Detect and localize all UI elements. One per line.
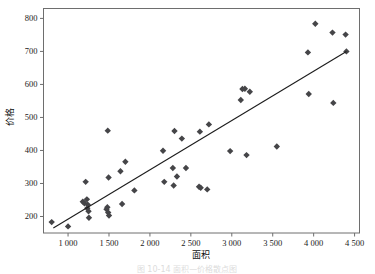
y-tick-label: 700 [25, 46, 38, 56]
x-tick-label: 4 000 [304, 238, 323, 248]
x-tick-label: 4 500 [345, 238, 364, 248]
y-tick-label: 500 [25, 112, 38, 122]
scatter-plot-figure: 1 0001 5002 0002 5003 0003 5004 0004 500… [0, 0, 375, 274]
x-tick-label: 3 000 [222, 238, 241, 248]
y-tick-label: 800 [25, 13, 38, 23]
x-tick-label: 1 500 [99, 238, 118, 248]
y-tick-label: 300 [25, 178, 38, 188]
y-tick-label: 200 [25, 211, 38, 221]
chart-canvas: 1 0001 5002 0002 5003 0003 5004 0004 500… [0, 0, 375, 274]
y-tick-label: 400 [25, 145, 38, 155]
y-tick-label: 600 [25, 79, 38, 89]
x-tick-label: 3 500 [263, 238, 282, 248]
x-tick-label: 2 500 [181, 238, 200, 248]
x-tick-label: 1 000 [58, 238, 77, 248]
x-tick-label: 2 000 [140, 238, 159, 248]
y-axis-title: 价格 [4, 108, 15, 126]
x-axis-title: 面积 [192, 249, 210, 260]
figure-caption: 图 10-14 面积—价格散点图 [137, 264, 237, 274]
